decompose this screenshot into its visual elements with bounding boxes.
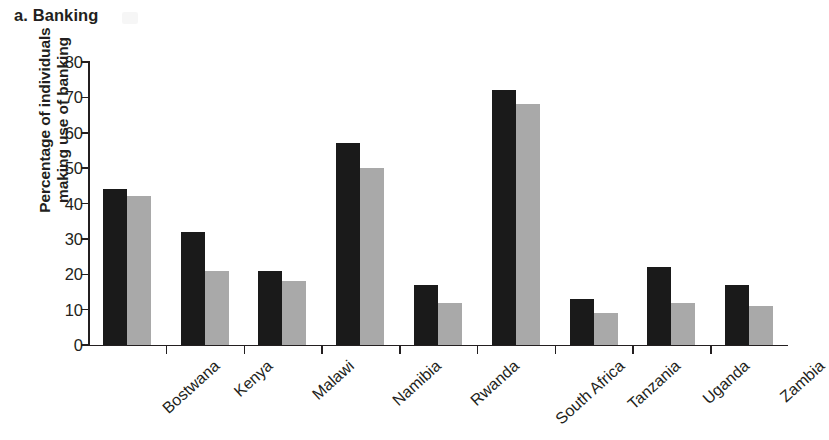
bar-light xyxy=(594,313,618,345)
category-label: Tanzania xyxy=(624,357,684,413)
category-label: Rwanda xyxy=(467,357,523,410)
category-label: Bostwana xyxy=(159,357,223,417)
bar-light xyxy=(127,196,151,345)
y-axis-title-line-1: Percentage of individuals xyxy=(36,27,54,212)
bar-light xyxy=(516,104,540,345)
x-tick-mark xyxy=(399,345,401,354)
bar-dark xyxy=(103,189,127,345)
scan-artifact xyxy=(122,12,138,24)
bar-group xyxy=(710,62,788,345)
y-tick-label: 70 xyxy=(65,88,83,107)
x-tick-mark xyxy=(166,345,168,354)
bar-dark xyxy=(414,285,438,345)
bar-light xyxy=(282,281,306,345)
bar-group xyxy=(477,62,555,345)
bar-dark xyxy=(570,299,594,345)
bar-dark xyxy=(181,232,205,345)
bar-group xyxy=(88,62,166,345)
bar-light xyxy=(205,271,229,345)
y-tick-label: 0 xyxy=(74,336,83,355)
y-tick-label: 10 xyxy=(65,300,83,319)
y-tick-label: 60 xyxy=(65,123,83,142)
y-tick-label: 30 xyxy=(65,229,83,248)
x-tick-mark xyxy=(321,345,323,354)
bar-light xyxy=(360,168,384,345)
category-label: South Africa xyxy=(552,357,628,428)
category-label: Uganda xyxy=(700,357,754,408)
category-label: Namibia xyxy=(389,357,445,410)
bar-dark xyxy=(647,267,671,345)
bar-group xyxy=(555,62,633,345)
bar-group xyxy=(166,62,244,345)
bar-group xyxy=(399,62,477,345)
plot-area: 01020304050607080 xyxy=(88,62,788,345)
x-tick-mark xyxy=(555,345,557,354)
bar-dark xyxy=(725,285,749,345)
y-tick-label: 50 xyxy=(65,159,83,178)
category-label: Kenya xyxy=(230,357,276,401)
y-tick-label: 20 xyxy=(65,265,83,284)
bar-dark xyxy=(336,143,360,345)
bar-group xyxy=(244,62,322,345)
bar-dark xyxy=(258,271,282,345)
category-label: Malawi xyxy=(309,357,358,404)
bar-group xyxy=(632,62,710,345)
x-tick-mark xyxy=(710,345,712,354)
bar-light xyxy=(438,303,462,345)
x-tick-mark xyxy=(477,345,479,354)
y-tick-label: 80 xyxy=(65,53,83,72)
x-tick-mark xyxy=(244,345,246,354)
category-label: Zambia xyxy=(777,357,829,406)
bar-dark xyxy=(492,90,516,345)
bar-group xyxy=(321,62,399,345)
y-tick-label: 40 xyxy=(65,194,83,213)
bar-light xyxy=(671,303,695,345)
bar-light xyxy=(749,306,773,345)
x-tick-mark xyxy=(632,345,634,354)
